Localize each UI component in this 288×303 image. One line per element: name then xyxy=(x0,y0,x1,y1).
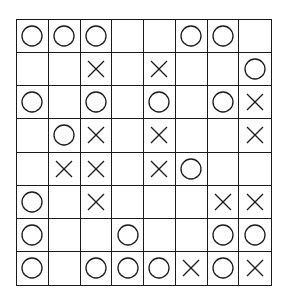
board-cell-r2-c3[interactable] xyxy=(81,53,113,86)
circle-o-icon xyxy=(85,91,107,113)
board-cell-r1-c5[interactable] xyxy=(144,20,176,53)
cross-x-icon xyxy=(244,191,266,213)
cross-x-icon xyxy=(148,124,170,146)
board-cell-r2-c6[interactable] xyxy=(176,53,208,86)
board-cell-r6-c7[interactable] xyxy=(208,186,240,219)
board-cell-r8-c3[interactable] xyxy=(81,252,113,285)
board-cell-r3-c5[interactable] xyxy=(144,86,176,119)
board-cell-r7-c3[interactable] xyxy=(81,219,113,252)
board-cell-r6-c3[interactable] xyxy=(81,186,113,219)
circle-o-icon xyxy=(53,25,75,47)
board-cell-r7-c6[interactable] xyxy=(176,219,208,252)
board-cell-r3-c4[interactable] xyxy=(112,86,144,119)
cross-x-icon xyxy=(53,158,75,180)
circle-o-icon xyxy=(85,257,107,279)
board-cell-r1-c4[interactable] xyxy=(112,20,144,53)
board-cell-r7-c4[interactable] xyxy=(112,219,144,252)
board-cell-r1-c1[interactable] xyxy=(17,20,49,53)
circle-o-icon xyxy=(180,25,202,47)
board-cell-r3-c1[interactable] xyxy=(17,86,49,119)
board-cell-r4-c4[interactable] xyxy=(112,119,144,152)
circle-o-icon xyxy=(85,25,107,47)
board-cell-r5-c2[interactable] xyxy=(49,153,81,186)
board-cell-r2-c7[interactable] xyxy=(208,53,240,86)
board-cell-r4-c1[interactable] xyxy=(17,119,49,152)
board-cell-r4-c2[interactable] xyxy=(49,119,81,152)
board-cell-r5-c7[interactable] xyxy=(208,153,240,186)
board-cell-r4-c3[interactable] xyxy=(81,119,113,152)
board-cell-r2-c8[interactable] xyxy=(239,53,271,86)
circle-o-icon xyxy=(180,158,202,180)
board-cell-r6-c6[interactable] xyxy=(176,186,208,219)
board-cell-r8-c6[interactable] xyxy=(176,252,208,285)
cross-x-icon xyxy=(212,191,234,213)
cross-x-icon xyxy=(148,158,170,180)
board-cell-r1-c2[interactable] xyxy=(49,20,81,53)
board-cell-r4-c8[interactable] xyxy=(239,119,271,152)
board-cell-r1-c8[interactable] xyxy=(239,20,271,53)
board-cell-r5-c8[interactable] xyxy=(239,153,271,186)
circle-o-icon xyxy=(21,25,43,47)
board-cell-r4-c6[interactable] xyxy=(176,119,208,152)
board-cell-r3-c7[interactable] xyxy=(208,86,240,119)
board-cell-r5-c1[interactable] xyxy=(17,153,49,186)
circle-o-icon xyxy=(212,257,234,279)
circle-o-icon xyxy=(21,224,43,246)
board-cell-r3-c3[interactable] xyxy=(81,86,113,119)
cross-x-icon xyxy=(180,257,202,279)
board-cell-r7-c8[interactable] xyxy=(239,219,271,252)
circle-o-icon xyxy=(244,224,266,246)
board-cell-r6-c8[interactable] xyxy=(239,186,271,219)
board-cell-r4-c5[interactable] xyxy=(144,119,176,152)
board-cell-r8-c2[interactable] xyxy=(49,252,81,285)
board-cell-r1-c6[interactable] xyxy=(176,20,208,53)
board-cell-r8-c8[interactable] xyxy=(239,252,271,285)
circle-o-icon xyxy=(244,58,266,80)
cross-x-icon xyxy=(244,124,266,146)
board-cell-r5-c4[interactable] xyxy=(112,153,144,186)
circle-o-icon xyxy=(117,224,139,246)
board-cell-r8-c7[interactable] xyxy=(208,252,240,285)
board-cell-r5-c6[interactable] xyxy=(176,153,208,186)
board-cell-r8-c4[interactable] xyxy=(112,252,144,285)
board-cell-r3-c8[interactable] xyxy=(239,86,271,119)
circle-o-icon xyxy=(212,91,234,113)
board-cell-r2-c1[interactable] xyxy=(17,53,49,86)
board-cell-r3-c6[interactable] xyxy=(176,86,208,119)
board-cell-r7-c5[interactable] xyxy=(144,219,176,252)
board-cell-r4-c7[interactable] xyxy=(208,119,240,152)
game-board xyxy=(16,19,272,286)
circle-o-icon xyxy=(117,257,139,279)
board-cell-r7-c2[interactable] xyxy=(49,219,81,252)
circle-o-icon xyxy=(21,91,43,113)
circle-o-icon xyxy=(21,257,43,279)
cross-x-icon xyxy=(85,191,107,213)
board-cell-r1-c3[interactable] xyxy=(81,20,113,53)
cross-x-icon xyxy=(148,58,170,80)
board-cell-r6-c4[interactable] xyxy=(112,186,144,219)
board-cell-r5-c5[interactable] xyxy=(144,153,176,186)
board-cell-r2-c2[interactable] xyxy=(49,53,81,86)
cross-x-icon xyxy=(85,58,107,80)
board-cell-r7-c7[interactable] xyxy=(208,219,240,252)
circle-o-icon xyxy=(212,25,234,47)
board-cell-r6-c2[interactable] xyxy=(49,186,81,219)
board-cell-r2-c4[interactable] xyxy=(112,53,144,86)
cross-x-icon xyxy=(244,257,266,279)
board-cell-r7-c1[interactable] xyxy=(17,219,49,252)
cross-x-icon xyxy=(85,124,107,146)
circle-o-icon xyxy=(53,124,75,146)
cross-x-icon xyxy=(244,91,266,113)
circle-o-icon xyxy=(21,191,43,213)
board-cell-r2-c5[interactable] xyxy=(144,53,176,86)
circle-o-icon xyxy=(148,257,170,279)
board-cell-r5-c3[interactable] xyxy=(81,153,113,186)
board-cell-r6-c5[interactable] xyxy=(144,186,176,219)
circle-o-icon xyxy=(212,224,234,246)
board-cell-r3-c2[interactable] xyxy=(49,86,81,119)
board-cell-r1-c7[interactable] xyxy=(208,20,240,53)
board-cell-r8-c1[interactable] xyxy=(17,252,49,285)
circle-o-icon xyxy=(148,91,170,113)
board-cell-r6-c1[interactable] xyxy=(17,186,49,219)
board-cell-r8-c5[interactable] xyxy=(144,252,176,285)
